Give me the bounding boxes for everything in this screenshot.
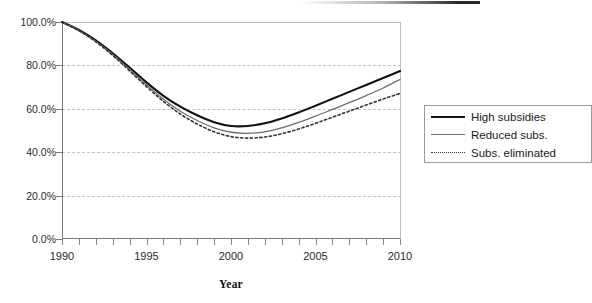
legend-item-reduced-subs[interactable]: Reduced subs. bbox=[431, 126, 589, 144]
x-axis-tick-mark bbox=[79, 239, 80, 245]
legend-item-high-subsidies[interactable]: High subsidies bbox=[431, 108, 589, 126]
x-axis-tick-mark bbox=[248, 239, 249, 245]
x-axis-tick-mark bbox=[214, 239, 215, 245]
y-axis-tick-label: 0.0% bbox=[4, 234, 56, 245]
x-axis-tick-mark bbox=[366, 239, 367, 245]
dotted-line-key-icon bbox=[431, 152, 465, 156]
x-axis-tick-label: 1995 bbox=[124, 250, 170, 263]
legend-item-subs-eliminated[interactable]: Subs. eliminated bbox=[431, 144, 589, 162]
legend-item-label: Reduced subs. bbox=[471, 127, 548, 143]
x-axis-tick-label: 2010 bbox=[377, 250, 423, 263]
x-axis-tick-label: 2000 bbox=[208, 250, 254, 263]
x-axis-tick-mark bbox=[299, 239, 300, 245]
y-axis-tick-label: 40.0% bbox=[4, 147, 56, 158]
x-axis-tick-mark bbox=[147, 239, 148, 245]
x-axis-tick-mark bbox=[316, 239, 317, 245]
legend-item-label: High subsidies bbox=[471, 109, 546, 125]
y-axis-tick-label: 20.0% bbox=[4, 191, 56, 202]
x-axis-tick-mark bbox=[265, 239, 266, 245]
x-axis-tick-mark bbox=[383, 239, 384, 245]
x-axis-tick-mark bbox=[62, 239, 63, 245]
y-axis-tick-label: 100.0% bbox=[4, 17, 56, 28]
x-axis-tick-label: 2005 bbox=[293, 250, 339, 263]
x-axis-tick-label: 1990 bbox=[39, 250, 85, 263]
plot-area bbox=[62, 22, 400, 239]
y-axis-tick-label: 60.0% bbox=[4, 104, 56, 115]
x-axis-tick-mark bbox=[349, 239, 350, 245]
x-axis-tick-mark bbox=[282, 239, 283, 245]
x-axis-tick-mark bbox=[96, 239, 97, 245]
x-axis-tick-mark bbox=[130, 239, 131, 245]
y-axis-tick-label: 80.0% bbox=[4, 60, 56, 71]
x-axis-tick-mark bbox=[180, 239, 181, 245]
x-axis-tick-mark bbox=[231, 239, 232, 245]
x-axis-tick-mark bbox=[163, 239, 164, 245]
x-axis-tick-mark bbox=[400, 239, 401, 245]
x-axis-tick-mark bbox=[197, 239, 198, 245]
x-axis-title: Year bbox=[0, 278, 462, 290]
legend-item-label: Subs. eliminated bbox=[471, 145, 556, 161]
legend: High subsidies Reduced subs. Subs. elimi… bbox=[424, 105, 592, 163]
solid-thin-line-key-icon bbox=[431, 134, 465, 138]
solid-thick-line-key-icon bbox=[431, 116, 465, 121]
x-axis-tick-mark bbox=[332, 239, 333, 245]
x-axis-tick-mark bbox=[113, 239, 114, 245]
top-decorative-rule bbox=[300, 1, 480, 4]
plot-right-border bbox=[400, 22, 401, 240]
